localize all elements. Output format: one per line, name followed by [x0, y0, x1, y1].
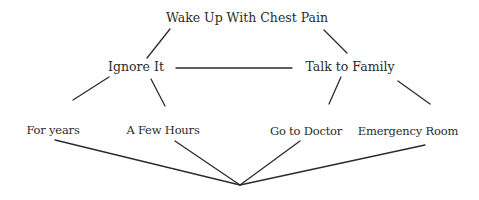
edge-talk-er	[398, 81, 430, 104]
node-for-years: For years	[26, 123, 79, 137]
edge-talk-doctor	[329, 77, 341, 104]
node-a-few-hours: A Few Hours	[126, 123, 199, 137]
diagram-edges	[0, 0, 479, 200]
node-emergency-room: Emergency Room	[358, 124, 458, 138]
node-ignore-it: Ignore It	[108, 60, 164, 74]
edge-root-ignore	[147, 29, 170, 58]
edge-years-convergence	[55, 140, 240, 185]
edge-hours-convergence	[175, 141, 240, 185]
node-wake-up-with-chest-pain: Wake Up With Chest Pain	[166, 11, 328, 25]
edge-ignore-years	[73, 77, 109, 100]
node-talk-to-family: Talk to Family	[305, 60, 394, 74]
node-go-to-doctor: Go to Doctor	[270, 124, 342, 138]
edge-ignore-hours	[151, 79, 165, 106]
decision-diagram: Wake Up With Chest Pain Ignore It Talk t…	[0, 0, 479, 200]
edge-root-talk	[324, 30, 347, 53]
